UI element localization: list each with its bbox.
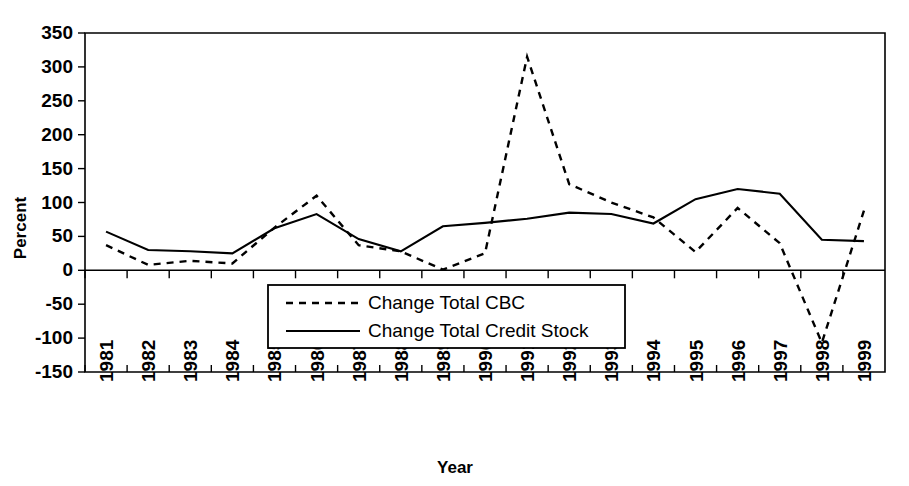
legend-label-credit-stock: Change Total Credit Stock: [368, 320, 589, 341]
x-tick-label: 1995: [686, 339, 707, 382]
x-tick-label: 1994: [643, 339, 664, 382]
y-tick-label: -100: [35, 327, 73, 348]
x-tick-label: 1998: [812, 340, 833, 382]
y-tick-label: 100: [41, 192, 73, 213]
y-tick-label: 200: [41, 124, 73, 145]
x-axis-title: Year: [437, 458, 473, 477]
x-tick-label: 1983: [180, 340, 201, 382]
x-tick-label: 1981: [96, 339, 117, 382]
y-axis-ticks: [78, 33, 85, 372]
legend-label-cbc: Change Total CBC: [368, 292, 525, 313]
y-tick-label: 0: [62, 259, 73, 280]
legend: Change Total CBC Change Total Credit Sto…: [268, 285, 625, 348]
series-change-total-credit-stock: [106, 189, 864, 253]
y-tick-label: -50: [46, 293, 73, 314]
x-tick-label: 1982: [138, 340, 159, 382]
y-axis-tick-labels: -150-100-50050100150200250300350: [35, 22, 73, 382]
y-tick-label: 150: [41, 158, 73, 179]
x-tick-label: 1997: [770, 340, 791, 382]
y-tick-label: -150: [35, 361, 73, 382]
x-tick-label: 1984: [222, 339, 243, 382]
y-axis-title: Percent: [11, 196, 30, 259]
line-chart: -150-100-50050100150200250300350 1981198…: [0, 0, 909, 486]
y-tick-label: 50: [52, 225, 73, 246]
y-tick-label: 250: [41, 90, 73, 111]
x-tick-label: 1999: [854, 340, 875, 382]
y-tick-label: 300: [41, 56, 73, 77]
chart-page: -150-100-50050100150200250300350 1981198…: [0, 0, 909, 486]
x-tick-label: 1996: [728, 340, 749, 382]
y-tick-label: 350: [41, 22, 73, 43]
